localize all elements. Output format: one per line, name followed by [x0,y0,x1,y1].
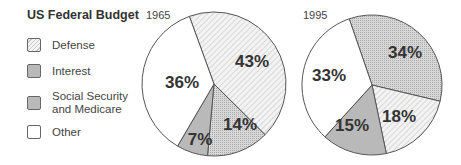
pie-label: 7% [188,130,213,149]
pie-charts: 43%14%7%36% 34%18%15%33% [0,0,461,165]
pie-label: 15% [335,116,369,135]
pie-1965: 43%14%7%36% [142,12,286,156]
pie-label: 34% [388,43,422,62]
pie-label: 33% [312,66,346,85]
pie-1995: 34%18%15%33% [302,15,442,155]
pie-label: 18% [382,107,416,126]
pie-label: 36% [165,73,199,92]
pie-label: 43% [235,52,269,71]
pie-label: 14% [223,115,257,134]
